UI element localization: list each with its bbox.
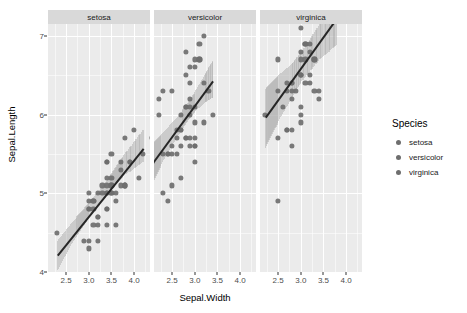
- legend-item-setosa[interactable]: setosa: [392, 135, 464, 150]
- data-point: [210, 112, 215, 117]
- data-point: [316, 88, 321, 93]
- data-point: [276, 136, 281, 141]
- data-point: [86, 246, 91, 251]
- x-tick-mark: [134, 272, 135, 275]
- gridline-major-vertical: [323, 24, 324, 272]
- x-tick-label: 4.0: [129, 276, 140, 285]
- gridline-minor-vertical: [183, 24, 184, 272]
- x-tick-label: 3.0: [83, 276, 94, 285]
- legend: Species setosaversicolorvirginica: [392, 118, 464, 180]
- data-point: [113, 222, 118, 227]
- x-tick-mark: [240, 272, 241, 275]
- gridline-minor-vertical: [123, 24, 124, 272]
- x-tick-mark: [346, 272, 347, 275]
- legend-item-virginica[interactable]: virginica: [392, 165, 464, 180]
- facet-versicolor: versicolor: [154, 10, 256, 272]
- confidence-band-segment: [142, 130, 144, 162]
- gridline-minor-vertical: [267, 24, 268, 272]
- data-point: [54, 230, 59, 235]
- gridline-major-vertical: [89, 24, 90, 272]
- data-point: [104, 159, 109, 164]
- legend-dot-icon: [396, 170, 401, 175]
- x-tick-label: 3.0: [295, 276, 306, 285]
- x-axis-cell: 2.53.03.54.0: [48, 272, 150, 290]
- data-point: [192, 136, 197, 141]
- gridline-minor-vertical: [251, 24, 252, 272]
- gridline-major-vertical: [111, 24, 112, 272]
- data-point: [289, 128, 294, 133]
- gridline-minor-vertical: [100, 24, 101, 272]
- data-point: [276, 199, 281, 204]
- data-point: [192, 65, 197, 70]
- x-axis-cell: 2.53.03.54.0: [260, 272, 362, 290]
- data-point: [122, 136, 127, 141]
- legend-label: versicolor: [409, 153, 443, 162]
- y-tick-mark: [44, 35, 47, 36]
- data-point: [104, 222, 109, 227]
- x-tick-mark: [194, 272, 195, 275]
- panel-wrapper: [260, 24, 362, 272]
- legend-items: setosaversicolorvirginica: [392, 135, 464, 180]
- x-tick-label: 3.5: [106, 276, 117, 285]
- legend-item-versicolor[interactable]: versicolor: [392, 150, 464, 165]
- legend-dot-icon: [396, 140, 401, 145]
- gridline-major-vertical: [217, 24, 218, 272]
- data-point: [197, 41, 202, 46]
- data-point: [298, 120, 303, 125]
- data-point: [104, 206, 109, 211]
- y-axis: 4567: [18, 0, 44, 313]
- x-tick-label: 3.5: [318, 276, 329, 285]
- data-point: [188, 136, 193, 141]
- data-point: [160, 88, 165, 93]
- data-point: [170, 143, 175, 148]
- data-point: [122, 183, 127, 188]
- gridline-major-vertical: [240, 24, 241, 272]
- data-point: [113, 199, 118, 204]
- legend-key-icon: [392, 151, 405, 164]
- x-tick-mark: [323, 272, 324, 275]
- legend-dot-icon: [396, 155, 401, 160]
- data-point: [298, 104, 303, 109]
- data-point: [192, 120, 197, 125]
- data-point: [298, 112, 303, 117]
- x-tick-mark: [172, 272, 173, 275]
- facet-virginica: virginica: [260, 10, 362, 272]
- facet-strip-label: virginica: [260, 10, 362, 24]
- data-point: [136, 175, 141, 180]
- legend-label: setosa: [409, 138, 433, 147]
- x-tick-mark: [278, 272, 279, 275]
- panel-versicolor: [154, 24, 256, 272]
- confidence-band-segment: [336, 24, 338, 45]
- legend-title: Species: [392, 118, 464, 129]
- legend-label: virginica: [409, 168, 438, 177]
- data-point: [86, 238, 91, 243]
- data-point: [183, 73, 188, 78]
- x-tick-label: 2.5: [167, 276, 178, 285]
- legend-key-icon: [392, 166, 405, 179]
- data-point: [170, 183, 175, 188]
- x-tick-label: 2.5: [273, 276, 284, 285]
- x-tick-mark: [88, 272, 89, 275]
- gridline-minor-vertical: [229, 24, 230, 272]
- confidence-band-segment: [212, 61, 213, 98]
- panel-setosa: [48, 24, 150, 272]
- x-tick-mark: [300, 272, 301, 275]
- data-point: [132, 128, 137, 133]
- gridline-minor-vertical: [145, 24, 146, 272]
- x-tick-mark: [111, 272, 112, 275]
- gridline-major-vertical: [346, 24, 347, 272]
- data-point: [165, 199, 170, 204]
- x-tick-label: 2.5: [61, 276, 72, 285]
- x-axis-cell: 2.53.03.54.0: [154, 272, 256, 290]
- y-tick-mark: [44, 114, 47, 115]
- data-point: [183, 136, 188, 141]
- data-point: [316, 96, 321, 101]
- panel-virginica: [260, 24, 362, 272]
- ggplot-figure: Sepal.Length 4567 setosaversicolorvirgin…: [0, 0, 467, 313]
- data-point: [188, 80, 193, 85]
- data-point: [276, 57, 281, 62]
- facet-strip-label: setosa: [48, 10, 150, 24]
- x-tick-label: 3.0: [189, 276, 200, 285]
- facet-setosa: setosa: [48, 10, 150, 272]
- y-tick-mark: [44, 272, 47, 273]
